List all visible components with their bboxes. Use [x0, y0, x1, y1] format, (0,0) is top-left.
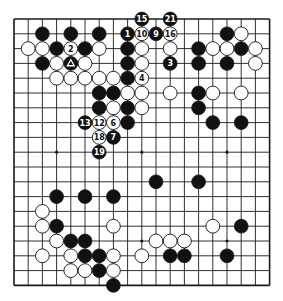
move-number-label: 10	[136, 30, 148, 39]
black-stone	[78, 190, 92, 204]
move-10-white-stone: 10	[135, 27, 149, 41]
black-stone	[50, 219, 64, 233]
move-number-label: 6	[111, 119, 117, 128]
black-stone	[36, 27, 50, 41]
move-number-label: 19	[94, 148, 106, 157]
move-13-black-stone: 13	[78, 116, 92, 130]
black-stone	[50, 42, 64, 56]
move-number-label: 21	[165, 15, 177, 24]
white-stone	[135, 42, 149, 56]
move-6-white-stone: 6	[107, 116, 121, 130]
black-stone	[121, 101, 135, 115]
move-12-white-stone: 12	[92, 116, 106, 130]
white-stone	[64, 249, 78, 263]
move-21-black-stone: 21	[163, 12, 177, 26]
black-stone	[107, 279, 121, 293]
white-stone	[50, 234, 64, 248]
black-stone	[64, 234, 78, 248]
black-stone	[92, 264, 106, 278]
black-stone	[92, 86, 106, 100]
black-stone	[234, 116, 248, 130]
black-stone	[78, 234, 92, 248]
black-stone	[78, 42, 92, 56]
star-point	[140, 151, 143, 154]
white-stone	[107, 264, 121, 278]
white-stone	[36, 205, 50, 219]
star-point	[225, 151, 228, 154]
star-point	[55, 151, 58, 154]
white-stone	[135, 249, 149, 263]
white-stone	[121, 86, 135, 100]
black-stone	[206, 116, 220, 130]
move-9-black-stone: 9	[149, 27, 163, 41]
black-stone	[64, 27, 78, 41]
white-stone	[149, 234, 163, 248]
black-stone	[192, 175, 206, 189]
white-stone	[220, 42, 234, 56]
black-stone	[50, 190, 64, 204]
white-stone	[163, 42, 177, 56]
white-stone	[135, 86, 149, 100]
move-18-white-stone: 18	[92, 131, 106, 145]
black-stone	[192, 42, 206, 56]
black-stone	[36, 57, 50, 71]
white-stone	[21, 42, 35, 56]
white-stone	[36, 249, 50, 263]
white-stone	[107, 101, 121, 115]
move-number-label: 13	[79, 119, 90, 128]
white-stone	[92, 42, 106, 56]
triangle-marked-stone	[64, 57, 78, 71]
white-stone	[64, 71, 78, 85]
black-stone	[234, 42, 248, 56]
white-stone	[78, 264, 92, 278]
black-stone	[121, 42, 135, 56]
move-number-label: 2	[68, 45, 74, 54]
move-number-label: 4	[139, 74, 145, 83]
white-stone	[78, 57, 92, 71]
black-stone	[220, 249, 234, 263]
black-stone	[121, 71, 135, 85]
black-stone	[220, 57, 234, 71]
move-19-black-stone: 19	[92, 145, 106, 159]
white-stone	[36, 219, 50, 233]
black-stone	[121, 116, 135, 130]
white-stone	[107, 71, 121, 85]
black-stone	[192, 57, 206, 71]
white-stone	[107, 249, 121, 263]
move-number-label: 16	[165, 30, 177, 39]
move-4-white-stone: 4	[135, 71, 149, 85]
black-stone	[92, 249, 106, 263]
white-stone	[78, 71, 92, 85]
marked-stones	[64, 57, 78, 71]
white-stone	[50, 71, 64, 85]
black-stone	[234, 219, 248, 233]
go-board-diagram: 12346791012131516181921	[0, 0, 283, 301]
black-stone	[121, 57, 135, 71]
black-stone	[192, 101, 206, 115]
white-stone	[163, 86, 177, 100]
move-15-black-stone: 15	[135, 12, 149, 26]
move-number-label: 15	[136, 15, 148, 24]
move-number-label: 18	[94, 133, 106, 142]
black-stone	[107, 86, 121, 100]
move-1-black-stone: 1	[121, 27, 135, 41]
white-stone	[36, 42, 50, 56]
move-number-label: 1	[125, 30, 131, 39]
move-number-label: 9	[153, 30, 159, 39]
white-stone	[206, 219, 220, 233]
white-stone	[234, 86, 248, 100]
black-stone	[92, 101, 106, 115]
move-number-label: 7	[111, 133, 117, 142]
black-stone	[192, 86, 206, 100]
move-3-black-stone: 3	[163, 57, 177, 71]
white-stone	[135, 101, 149, 115]
white-stone	[234, 27, 248, 41]
black-stone	[220, 27, 234, 41]
white-stone	[107, 219, 121, 233]
white-stone	[64, 264, 78, 278]
white-stone	[206, 86, 220, 100]
star-point	[140, 239, 143, 242]
white-stone	[206, 42, 220, 56]
white-stone	[163, 234, 177, 248]
white-stone	[249, 42, 263, 56]
